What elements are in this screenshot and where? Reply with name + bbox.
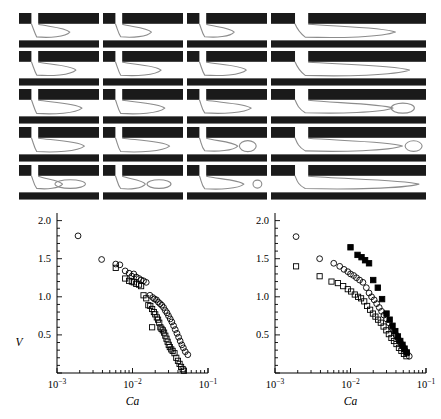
svg-text:2.0: 2.0 xyxy=(256,215,269,226)
snapshot-r5c1 xyxy=(19,165,99,201)
snapshot-r2c1 xyxy=(19,51,99,87)
figure-root: 0.51.01.52.010−310−210−1CaV 0.51.01.52.0… xyxy=(0,0,441,419)
svg-text:10−3: 10−3 xyxy=(48,377,67,390)
svg-text:1.0: 1.0 xyxy=(38,291,51,302)
snapshot-r1c4 xyxy=(271,13,426,49)
snapshot-r2c2 xyxy=(103,51,183,87)
snapshot-r3c3 xyxy=(187,89,267,125)
svg-text:10−2: 10−2 xyxy=(123,377,142,390)
left-plot: 0.51.01.52.010−310−210−1CaV xyxy=(0,205,220,419)
svg-text:V: V xyxy=(15,336,24,348)
snapshot-r5c4 xyxy=(271,165,426,201)
svg-text:10−3: 10−3 xyxy=(266,377,285,390)
snapshot-r3c2 xyxy=(103,89,183,125)
series-open-squares xyxy=(293,264,409,359)
snapshot-grid xyxy=(0,0,441,205)
right-plot: 0.51.01.52.010−310−210−1Ca xyxy=(218,205,438,419)
snapshot-r4c1 xyxy=(19,127,99,163)
svg-text:10−2: 10−2 xyxy=(341,377,360,390)
svg-text:10−1: 10−1 xyxy=(199,377,218,390)
snapshot-r4c4 xyxy=(271,127,426,163)
snapshot-r3c1 xyxy=(19,89,99,125)
snapshot-r1c3 xyxy=(187,13,267,49)
svg-text:1.5: 1.5 xyxy=(38,253,51,264)
snapshot-r4c3 xyxy=(187,127,267,163)
svg-text:1.5: 1.5 xyxy=(256,253,269,264)
series-open-circles xyxy=(75,233,191,358)
snapshot-r2c3 xyxy=(187,51,267,87)
plot-row: 0.51.01.52.010−310−210−1CaV 0.51.01.52.0… xyxy=(0,205,441,419)
svg-text:0.5: 0.5 xyxy=(38,329,51,340)
snapshot-r1c2 xyxy=(103,13,183,49)
svg-text:2.0: 2.0 xyxy=(38,215,51,226)
snapshot-r2c4 xyxy=(271,51,426,87)
svg-text:1.0: 1.0 xyxy=(256,291,269,302)
svg-text:Ca: Ca xyxy=(344,395,358,407)
snapshot-r1c1 xyxy=(19,13,99,49)
svg-text:Ca: Ca xyxy=(126,395,140,407)
svg-text:10−1: 10−1 xyxy=(417,377,436,390)
series-open-squares xyxy=(113,265,186,373)
snapshot-r5c2 xyxy=(103,165,183,201)
svg-text:0.5: 0.5 xyxy=(256,329,269,340)
snapshot-r5c3 xyxy=(187,165,267,201)
snapshot-r4c2 xyxy=(103,127,183,163)
snapshot-r3c4 xyxy=(271,89,426,125)
